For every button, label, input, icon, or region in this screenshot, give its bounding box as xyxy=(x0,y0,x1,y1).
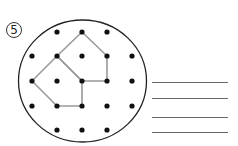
peg-dot xyxy=(79,103,84,108)
geoboard-diagram xyxy=(0,0,238,146)
peg-dot xyxy=(104,127,109,132)
peg-dot xyxy=(104,29,109,34)
answer-line[interactable] xyxy=(152,82,228,83)
peg-dot xyxy=(79,29,84,34)
peg-dot xyxy=(29,103,34,108)
peg-dots xyxy=(29,29,134,132)
peg-dot xyxy=(79,127,84,132)
peg-dot xyxy=(104,103,109,108)
peg-dot xyxy=(54,127,59,132)
peg-dot xyxy=(104,78,109,83)
peg-dot xyxy=(129,53,134,58)
peg-dot xyxy=(54,29,59,34)
peg-dot xyxy=(104,53,109,58)
peg-dot xyxy=(29,53,34,58)
peg-dot xyxy=(129,78,134,83)
answer-line[interactable] xyxy=(152,98,228,99)
answer-line[interactable] xyxy=(152,117,228,118)
peg-dot xyxy=(79,53,84,58)
peg-dot xyxy=(129,103,134,108)
peg-dot xyxy=(54,78,59,83)
answer-line[interactable] xyxy=(152,132,228,133)
pentagon-shapes xyxy=(32,32,107,106)
peg-dot xyxy=(54,103,59,108)
peg-dot xyxy=(29,78,34,83)
peg-dot xyxy=(54,53,59,58)
peg-dot xyxy=(79,78,84,83)
